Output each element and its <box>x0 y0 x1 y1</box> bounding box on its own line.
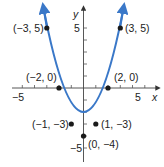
point-2-0 <box>105 85 110 90</box>
point-neg2-0 <box>56 85 61 90</box>
point-1-neg3 <box>93 121 98 126</box>
point-neg3-5 <box>44 25 49 30</box>
x-max-tick-label: 5 <box>135 91 141 103</box>
point-label-0-neg4: (0, −4) <box>88 138 119 150</box>
chart-canvas: y x −5 5 5 −5 (−3, 5) (−2, 0) (−1, −3) (… <box>0 0 164 167</box>
parabola-chart: y x −5 5 5 −5 (−3, 5) (−2, 0) (−1, −3) (… <box>0 0 164 167</box>
y-min-tick-label: −5 <box>70 142 82 154</box>
y-max-tick-label: 5 <box>74 22 80 34</box>
point-neg1-neg3 <box>69 121 74 126</box>
x-axis <box>12 85 158 88</box>
point-label-neg3-5: (−3, 5) <box>13 22 44 34</box>
x-axis-label: x <box>151 91 158 103</box>
x-min-tick-label: −5 <box>12 91 24 103</box>
point-label-neg2-0: (−2, 0) <box>26 71 57 83</box>
y-axis-label: y <box>72 8 79 20</box>
point-0-neg4 <box>81 133 86 138</box>
point-label-1-neg3: (1, −3) <box>101 118 132 130</box>
point-label-3-5: (3, 5) <box>125 22 150 34</box>
point-label-neg1-neg3: (−1, −3) <box>32 118 69 130</box>
y-axis <box>84 8 88 162</box>
point-3-5 <box>118 25 123 30</box>
point-label-2-0: (2, 0) <box>114 71 139 83</box>
